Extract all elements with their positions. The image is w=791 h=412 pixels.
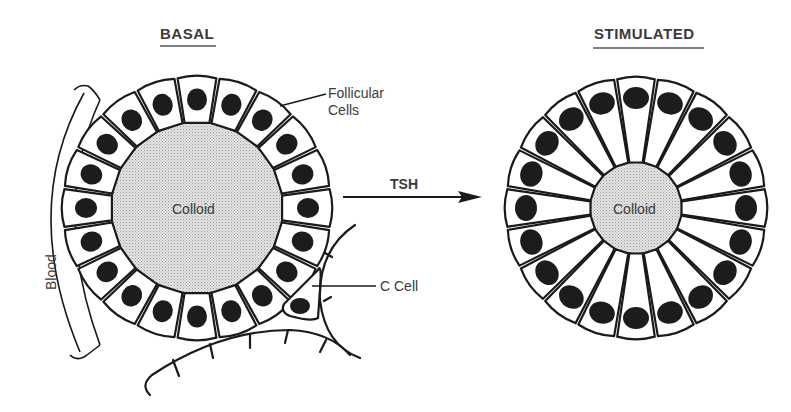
nucleus [623, 87, 649, 109]
blood-label: Blood [43, 254, 59, 290]
follicular-cells-label-line2: Cells [328, 102, 359, 118]
nucleus [187, 88, 207, 110]
stimulated-title: STIMULATED [593, 25, 704, 48]
colloid-label-basal: Colloid [172, 201, 215, 217]
follicular-cells-label-line1: Follicular [328, 85, 384, 101]
adjacent-follicle-bottom [145, 330, 350, 395]
nucleus [75, 198, 97, 218]
svg-text:STIMULATED: STIMULATED [594, 25, 695, 42]
nucleus [515, 195, 537, 221]
nucleus [735, 195, 757, 221]
nucleus [297, 198, 319, 218]
colloid-label-stimulated: Colloid [613, 201, 656, 217]
nucleus [623, 307, 649, 329]
tsh-arrow[interactable]: TSH [343, 176, 482, 203]
tsh-label: TSH [390, 176, 418, 192]
thyroid-follicle-diagram: BASAL STIMULATED Blood Colloid C Cell F [0, 0, 791, 412]
c-cell-label: C Cell [380, 278, 418, 294]
basal-title: BASAL [160, 25, 216, 46]
svg-text:BASAL: BASAL [160, 25, 214, 42]
nucleus [187, 306, 207, 328]
follicular-cells-pointer [280, 94, 326, 106]
